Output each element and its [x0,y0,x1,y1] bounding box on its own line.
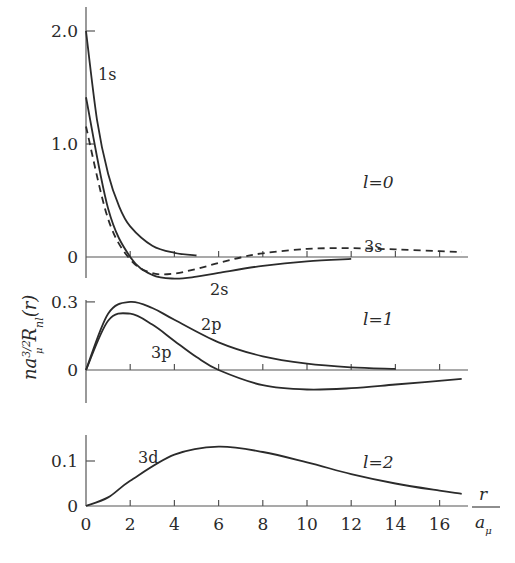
curve-2p [86,302,395,370]
label-3d: 3d [138,448,158,467]
label-3p: 3p [151,343,171,362]
x-tick-label: 0 [81,514,92,534]
x-tick-label: 6 [213,514,224,534]
x-tick-label: 8 [257,514,268,534]
panel-l0: 01.02.0 [51,7,468,279]
y-tick-label: 2.0 [51,21,78,41]
label-l1: l=1 [363,309,394,329]
y-tick-label: 0.3 [51,292,78,312]
radial-wavefunction-figure: na3/2μRnl(r) 01.02.0 00.3 00.1 1s 2s 3s … [0,0,515,563]
y-axis-label: na3/2μRnl(r) [19,295,46,380]
x-tick-labels: 0246810121416 [81,514,451,534]
y-tick-label: 0 [67,247,78,267]
y-tick-label: 0 [67,360,78,380]
y-tick-label: 0.1 [51,451,78,471]
x-axis-label: r aμ [472,484,500,536]
label-2p: 2p [201,315,221,334]
label-3s: 3s [364,237,382,256]
label-l0: l=0 [363,172,394,192]
x-tick-label: 2 [125,514,136,534]
x-tick-label: 14 [385,514,407,534]
x-tick-label: 16 [429,514,451,534]
label-l2: l=2 [363,452,394,472]
x-tick-label: 12 [340,514,362,534]
svg-text:r: r [479,484,488,504]
curve-3p [86,313,462,389]
panel-l2: 00.1 [51,435,468,516]
svg-text:aμ: aμ [475,512,492,536]
x-tick-label: 4 [169,514,180,534]
y-tick-label: 1.0 [51,134,78,154]
curve-3s [86,127,462,275]
x-tick-label: 10 [296,514,318,534]
label-2s: 2s [210,280,228,299]
label-1s: 1s [98,65,116,84]
svg-text:na3/2μRnl(r): na3/2μRnl(r) [19,295,46,380]
panel-l1: 00.3 [51,292,468,403]
y-tick-label: 0 [67,496,78,516]
